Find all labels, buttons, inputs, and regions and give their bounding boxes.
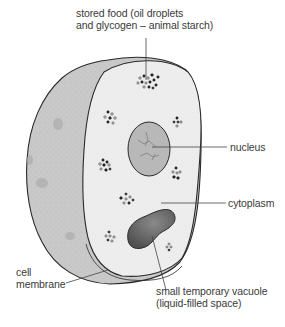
label-cytoplasm: cytoplasm xyxy=(228,197,274,209)
label-stored-food: stored food (oil droplets and glycogen –… xyxy=(76,7,213,31)
nucleus-shape xyxy=(128,122,170,176)
cell-diagram: stored food (oil droplets and glycogen –… xyxy=(0,0,285,327)
label-nucleus: nucleus xyxy=(230,141,266,153)
label-cell-membrane: cell membrane xyxy=(16,266,65,290)
label-vacuole: small temporary vacuole (liquid-filled s… xyxy=(156,285,268,309)
